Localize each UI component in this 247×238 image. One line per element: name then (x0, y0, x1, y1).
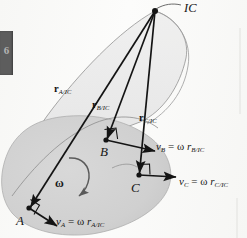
point-a-label: A (16, 214, 24, 227)
point-b-dot (103, 137, 108, 142)
v-a-equals: = (68, 215, 74, 227)
v-b-r-subscript: B/IC (191, 146, 204, 153)
equation-v-c: vC = ω rC/IC (179, 176, 228, 189)
v-b-equals: = (168, 140, 174, 152)
point-b-label: B (100, 145, 108, 158)
dynamics-diagram-svg (0, 0, 247, 238)
point-c-label: C (131, 181, 140, 194)
omega-label: ω (55, 176, 64, 191)
label-r-c-ic: rC/IC (139, 113, 157, 124)
v-c-subscript: C (184, 181, 189, 188)
ic-point-label: IC (184, 2, 197, 15)
equation-v-a: vA = ω rA/IC (56, 216, 104, 229)
v-a-subscript: A (61, 221, 65, 228)
v-c-omega: ω (200, 175, 207, 187)
r-c-ic-subscript: C/IC (144, 117, 157, 124)
r-b-ic-subscript: B/IC (97, 104, 110, 111)
r-a-ic-subscript: A/IC (59, 88, 72, 95)
point-a-dot (26, 205, 31, 210)
point-c-dot (136, 172, 141, 177)
label-r-b-ic: rB/IC (92, 100, 109, 111)
v-c-equals: = (191, 175, 197, 187)
point-ic-dot (152, 8, 158, 14)
v-a-omega: ω (77, 215, 84, 227)
page-edge-artifact-bottom (236, 198, 238, 238)
v-a-r-subscript: A/IC (91, 221, 104, 228)
v-b-omega: ω (177, 140, 184, 152)
label-r-a-ic: rA/IC (54, 84, 71, 95)
v-c-r-subscript: C/IC (215, 181, 229, 188)
chapter-tab-number: 6 (0, 44, 13, 56)
ic-leader-line (156, 4, 181, 9)
v-b-subscript: B (161, 146, 165, 153)
figure-root: 6 IC A B C ω rA/IC rB/IC rC/IC vA = ω rA… (0, 0, 247, 238)
equation-v-b: vB = ω rB/IC (156, 141, 204, 154)
page-edge-artifact-top (239, 28, 241, 114)
chapter-tab: 6 (0, 31, 13, 75)
